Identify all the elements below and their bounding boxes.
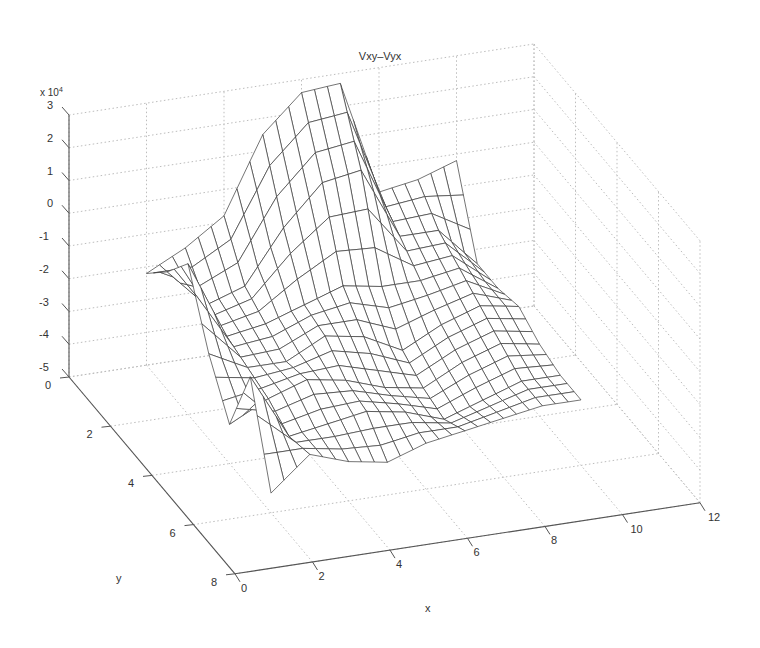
z-tick-label: -5 bbox=[39, 361, 49, 373]
y-tick-label: 6 bbox=[170, 527, 176, 539]
x-tick-label: 2 bbox=[319, 570, 325, 582]
x-tick-label: 8 bbox=[551, 534, 557, 546]
y-axis-label: y bbox=[116, 572, 122, 584]
surface-plot bbox=[0, 0, 760, 648]
z-tick-label: -4 bbox=[39, 328, 49, 340]
y-tick-label: 2 bbox=[87, 428, 93, 440]
x-axis-label: x bbox=[425, 602, 431, 614]
y-tick-label: 0 bbox=[45, 379, 51, 391]
z-tick-label: 0 bbox=[47, 197, 53, 209]
x-tick-label: 6 bbox=[474, 546, 480, 558]
x-tick-label: 0 bbox=[241, 582, 247, 594]
z-tick-label: -1 bbox=[39, 230, 49, 242]
x-tick-label: 12 bbox=[708, 511, 720, 523]
z-tick-label: 1 bbox=[47, 165, 53, 177]
z-tick-label: -2 bbox=[39, 263, 49, 275]
z-tick-label: 2 bbox=[47, 132, 53, 144]
z-tick-label: -3 bbox=[39, 296, 49, 308]
x-tick-label: 10 bbox=[631, 523, 643, 535]
x-tick-label: 4 bbox=[396, 558, 402, 570]
y-tick-label: 4 bbox=[128, 477, 134, 489]
y-tick-label: 8 bbox=[211, 576, 217, 588]
z-tick-label: 3 bbox=[47, 99, 53, 111]
